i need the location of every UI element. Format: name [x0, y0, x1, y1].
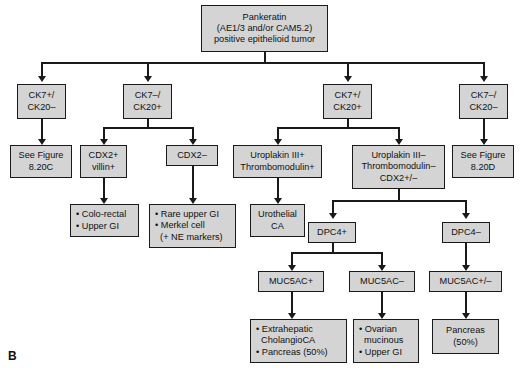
node-see-figure-820d-line-2: 8.20D: [456, 162, 510, 173]
node-pancreas-50-line-1: Pancreas: [436, 325, 495, 336]
node-see-figure-820c-line-1: See Figure: [14, 150, 68, 161]
connector-ck7p20n-to-fig820c: [41, 119, 43, 141]
node-ck7pos-ck20neg-a[interactable]: CK7+/ CK20–: [17, 84, 66, 119]
node-ck7neg-ck20neg-line-2: CK20–: [463, 102, 504, 113]
node-ovarian-mucinous-line-2: mucinous: [359, 335, 415, 346]
node-rare-uppergi-merkel-line-3: (+ NE markers): [155, 232, 232, 243]
node-rare-uppergi-merkel[interactable]: • Rare upper GI • Merkel cell (+ NE mark…: [149, 204, 236, 248]
node-muc5ac-posneg[interactable]: MUC5AC+/–: [429, 271, 502, 292]
node-pancreas-50-line-2: (50%): [436, 337, 495, 348]
node-rare-uppergi-merkel-line-2: • Merkel cell: [155, 220, 232, 231]
node-pankeratin[interactable]: Pankeratin (AE1/3 and/or CAM5.2) positiv…: [201, 5, 328, 52]
node-urothelial-ca[interactable]: Urothelial CA: [250, 204, 305, 237]
node-muc5ac-negative-line-1: MUC5AC–: [353, 276, 411, 287]
arrow-dpc4pos: [329, 213, 337, 219]
node-extrahepatic-cholangio[interactable]: • Extrahepatic CholangioCA • Pancreas (5…: [250, 319, 347, 363]
node-ck7pos-ck20pos[interactable]: CK7+/ CK20+: [323, 84, 372, 119]
connector-ck7p20p-bus: [277, 127, 399, 129]
arrow-ck7p20n: [38, 76, 46, 82]
node-ck7neg-ck20pos-line-1: CK7–/: [127, 90, 168, 101]
node-muc5ac-positive[interactable]: MUC5AC+: [258, 271, 324, 292]
node-colorectal-uppergi-line-2: • Upper GI: [76, 221, 135, 232]
panel-label: B: [8, 349, 17, 363]
node-dpc4-negative-line-1: DPC4–: [446, 227, 486, 238]
node-ck7neg-ck20neg-line-1: CK7–/: [463, 90, 504, 101]
node-cdx2-positive-line-1: CDX2+: [84, 150, 123, 161]
node-see-figure-820c-line-2: 8.20C: [14, 162, 68, 173]
node-uroplakin-negative-line-2: Thrombomodulin–: [356, 161, 441, 172]
arrow-ck7n20n: [480, 76, 488, 82]
node-urothelial-ca-line-1: Urothelial: [254, 209, 301, 220]
node-uroplakin-negative-line-1: Uroplakin III–: [356, 150, 441, 161]
node-dpc4-negative[interactable]: DPC4–: [442, 222, 490, 243]
node-ck7pos-ck20neg-a-line-2: CK20–: [21, 102, 62, 113]
connector-uroplakinpos-to-urothelial: [277, 178, 279, 200]
connector-dpc4-bus: [332, 200, 466, 202]
node-ovarian-mucinous-line-3: • Upper GI: [359, 347, 415, 358]
node-rare-uppergi-merkel-line-1: • Rare upper GI: [155, 209, 232, 220]
arrow-ck7n20p: [144, 76, 152, 82]
node-muc5ac-negative[interactable]: MUC5AC–: [349, 271, 415, 292]
node-see-figure-820d-line-1: See Figure: [456, 150, 510, 161]
node-pankeratin-line-2: (AE1/3 and/or CAM5.2): [205, 23, 324, 34]
node-muc5ac-positive-line-1: MUC5AC+: [262, 276, 320, 287]
connector-dpc4neg-to-muc5acposneg: [465, 243, 467, 267]
node-extrahepatic-cholangio-line-3: • Pancreas (50%): [256, 347, 343, 358]
node-cdx2-negative-line-1: CDX2–: [170, 150, 214, 161]
node-ck7pos-ck20neg-a-line-1: CK7+/: [21, 90, 62, 101]
arrow-dpc4neg: [462, 213, 470, 219]
node-extrahepatic-cholangio-line-1: • Extrahepatic: [256, 324, 343, 335]
node-see-figure-820c[interactable]: See Figure 8.20C: [10, 145, 72, 178]
node-uroplakin-negative-line-3: CDX2+/–: [356, 173, 441, 184]
node-uroplakin-negative[interactable]: Uroplakin III– Thrombomodulin– CDX2+/–: [352, 145, 445, 189]
node-cdx2-negative[interactable]: CDX2–: [166, 145, 218, 166]
node-cdx2-positive-line-2: villin+: [84, 162, 123, 173]
node-muc5ac-posneg-line-1: MUC5AC+/–: [433, 276, 498, 287]
node-uroplakin-positive-line-2: Thrombomodulin+: [237, 162, 318, 173]
node-cdx2-positive[interactable]: CDX2+ villin+: [80, 145, 127, 178]
node-ovarian-mucinous[interactable]: • Ovarian mucinous • Upper GI: [353, 319, 419, 363]
connector-main-bus: [41, 62, 484, 64]
connector-cdx2pos-to-colorectal: [103, 178, 105, 200]
flowchart-diagram: Pankeratin (AE1/3 and/or CAM5.2) positiv…: [0, 0, 526, 371]
node-ovarian-mucinous-line-1: • Ovarian: [359, 324, 415, 335]
node-uroplakin-positive[interactable]: Uroplakin III+ Thrombomodulin+: [233, 145, 322, 178]
connector-ck7n20n-to-fig820d: [483, 119, 485, 141]
node-colorectal-uppergi[interactable]: • Colo-rectal • Upper GI: [70, 204, 139, 237]
node-ck7neg-ck20neg[interactable]: CK7–/ CK20–: [459, 84, 508, 119]
connector-muc5acpos-to-extrahepatic: [291, 292, 293, 315]
connector-muc5acposneg-to-pancreas: [465, 292, 467, 315]
node-extrahepatic-cholangio-line-2: CholangioCA: [256, 335, 343, 346]
connector-cdx2neg-to-rareuppergi: [192, 166, 194, 200]
node-pankeratin-line-1: Pankeratin: [205, 12, 324, 23]
node-dpc4-positive[interactable]: DPC4+: [308, 222, 356, 243]
node-ck7pos-ck20pos-line-2: CK20+: [327, 102, 368, 113]
connector-muc5ac-bus: [291, 252, 382, 254]
connector-muc5acneg-to-ovarian: [381, 292, 383, 315]
node-pancreas-50[interactable]: Pancreas (50%): [432, 319, 499, 354]
arrow-ck7p20p: [344, 76, 352, 82]
node-urothelial-ca-line-2: CA: [254, 221, 301, 232]
node-dpc4-positive-line-1: DPC4+: [312, 227, 352, 238]
node-see-figure-820d[interactable]: See Figure 8.20D: [452, 145, 514, 178]
connector-ck7n20p-bus: [103, 127, 193, 129]
node-colorectal-uppergi-line-1: • Colo-rectal: [76, 209, 135, 220]
node-ck7neg-ck20pos[interactable]: CK7–/ CK20+: [123, 84, 172, 119]
node-ck7pos-ck20pos-line-1: CK7+/: [327, 90, 368, 101]
node-uroplakin-positive-line-1: Uroplakin III+: [237, 150, 318, 161]
node-ck7neg-ck20pos-line-2: CK20+: [127, 102, 168, 113]
node-pankeratin-line-3: positive epithelioid tumor: [205, 34, 324, 45]
